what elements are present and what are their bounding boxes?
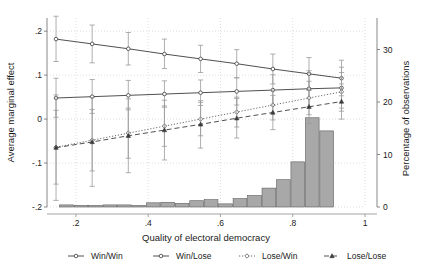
tick-labels: -.2-.10.1.2.2.4.6.810102030 — [32, 26, 393, 228]
histogram-bar — [291, 162, 305, 207]
x-axis-title: Quality of electoral democracy — [142, 232, 270, 243]
x-tick-label: .4 — [145, 218, 152, 228]
data-point-marker — [127, 94, 131, 98]
average-marginal-effect-chart: -.2-.10.1.2.2.4.6.810102030Average margi… — [0, 0, 422, 271]
legend-marker — [74, 254, 78, 258]
y-tick-label: -.2 — [32, 202, 42, 212]
histogram-bar — [74, 205, 88, 207]
data-point-marker — [199, 57, 203, 61]
y2-tick-label: 10 — [383, 150, 393, 160]
data-point-marker — [199, 91, 203, 95]
data-point-marker — [163, 52, 167, 56]
y-tick-label: 0 — [37, 114, 42, 124]
data-point-marker — [54, 37, 58, 41]
histogram-bar — [132, 205, 146, 207]
y2-tick-label: 0 — [383, 202, 388, 212]
legend-label-lose-win: Lose/Win — [262, 251, 298, 261]
x-tick-label: 1 — [363, 218, 368, 228]
data-point-marker — [271, 67, 275, 71]
histogram-bar — [103, 205, 117, 207]
y-tick-label: .1 — [35, 70, 42, 80]
x-tick-label: .8 — [289, 218, 296, 228]
data-point-marker — [235, 90, 239, 94]
histogram-bar — [305, 118, 319, 207]
histogram-bar — [219, 204, 233, 207]
histogram-bar — [146, 203, 160, 207]
y-tick-label: -.1 — [32, 158, 42, 168]
x-tick-label: .6 — [217, 218, 224, 228]
series-win-win — [53, 16, 344, 96]
histogram-bar — [89, 205, 103, 207]
series-win-lose — [53, 67, 344, 117]
series-line — [56, 102, 341, 148]
legend-label-win-win: Win/Win — [91, 251, 123, 261]
legend-marker — [245, 254, 249, 258]
y2-tick-label: 20 — [383, 97, 393, 107]
histogram-bar — [190, 201, 204, 207]
data-point-marker — [339, 99, 343, 103]
data-point-marker — [271, 110, 275, 114]
histogram-bar — [248, 195, 262, 207]
y-tick-label: .2 — [35, 26, 42, 36]
y2-axis-title: Percentage of observations — [400, 60, 411, 176]
y-axis-title: Average marginal effect — [5, 62, 16, 162]
data-point-marker — [235, 62, 239, 66]
histogram-bar — [320, 131, 334, 207]
legend-label-win-lose: Win/Lose — [176, 251, 212, 261]
histogram-bar — [233, 199, 247, 207]
histogram-bar — [161, 202, 175, 207]
histogram-bar — [60, 205, 74, 207]
data-point-marker — [127, 47, 131, 51]
histogram-bar — [117, 205, 131, 207]
legend: Win/WinWin/LoseLose/WinLose/Lose — [68, 251, 386, 261]
x-tick-label: .2 — [72, 218, 79, 228]
y2-tick-label: 30 — [383, 45, 393, 55]
data-point-marker — [162, 128, 166, 132]
legend-label-lose-lose: Lose/Lose — [347, 251, 386, 261]
chart-container: -.2-.10.1.2.2.4.6.810102030Average margi… — [0, 0, 422, 271]
data-point-marker — [163, 92, 167, 96]
histogram-series — [60, 118, 334, 207]
histogram-bar — [204, 200, 218, 207]
data-point-marker — [90, 42, 94, 46]
histogram-bar — [175, 203, 189, 207]
histogram-bar — [276, 180, 290, 207]
histogram-bar — [262, 188, 276, 207]
legend-marker — [159, 254, 163, 258]
